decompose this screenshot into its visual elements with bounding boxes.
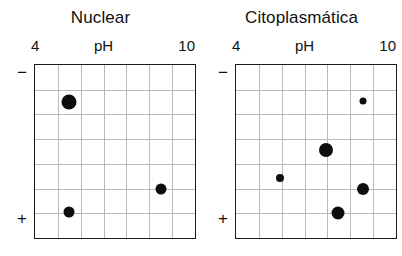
gridline-vertical (350, 65, 351, 238)
panel-title-citoplasmatica: Citoplasmática (201, 8, 402, 28)
protein-spot (156, 183, 167, 194)
gridline-vertical (373, 65, 374, 238)
gridline-horizontal (236, 114, 396, 115)
ph-axis-label-nuclear: pH (0, 36, 201, 56)
protein-spot (61, 95, 76, 110)
polarity-negative-label-citoplasmatica: − (214, 64, 232, 82)
gridline-vertical (58, 65, 59, 238)
two-d-gel-figure: Nuclear 4 pH 10 − + Citoplasmática 4 pH … (0, 0, 402, 256)
ph-axis-max-label-nuclear: 10 (178, 36, 195, 56)
gridline-vertical (104, 65, 105, 238)
gel-plot-area-citoplasmatica (235, 64, 397, 239)
gridline-vertical (172, 65, 173, 238)
protein-spot (360, 98, 367, 105)
protein-spot (63, 207, 74, 218)
gridline-horizontal (35, 189, 195, 190)
panel-nuclear: Nuclear 4 pH 10 − + (0, 0, 201, 256)
gridline-vertical (259, 65, 260, 238)
gridline-vertical (126, 65, 127, 238)
gridline-vertical (149, 65, 150, 238)
panel-title-nuclear: Nuclear (0, 8, 201, 28)
gridline-horizontal (35, 164, 195, 165)
gridline-horizontal (236, 213, 396, 214)
ph-axis-label-citoplasmatica: pH (201, 36, 402, 56)
ph-axis-max-label-citoplasmatica: 10 (379, 36, 396, 56)
polarity-negative-label-nuclear: − (13, 64, 31, 82)
polarity-positive-label-nuclear: + (13, 210, 31, 228)
gel-plot-area-nuclear (34, 64, 196, 239)
gridline-horizontal (236, 139, 396, 140)
protein-spot (357, 183, 369, 195)
gridline-horizontal (35, 90, 195, 91)
gridline-horizontal (35, 139, 195, 140)
protein-spot (331, 206, 344, 219)
gridline-horizontal (236, 90, 396, 91)
gridline-vertical (305, 65, 306, 238)
gridline-horizontal (35, 114, 195, 115)
protein-spot (276, 174, 284, 182)
gridline-vertical (81, 65, 82, 238)
protein-spot (319, 143, 333, 157)
polarity-positive-label-citoplasmatica: + (214, 210, 232, 228)
gridline-vertical (282, 65, 283, 238)
gridline-horizontal (236, 189, 396, 190)
gridline-horizontal (236, 164, 396, 165)
gridline-horizontal (35, 213, 195, 214)
panel-citoplasmatica: Citoplasmática 4 pH 10 − + (201, 0, 402, 256)
